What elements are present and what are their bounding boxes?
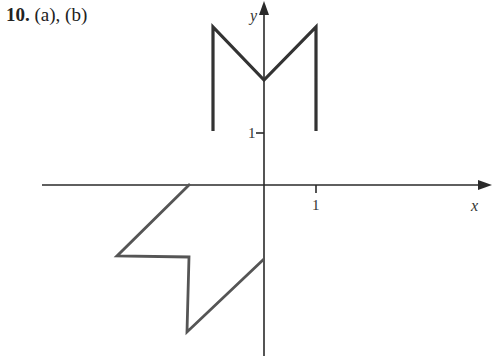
y-tick-label: 1 (248, 125, 256, 141)
y-axis: 1 y (248, 1, 269, 356)
x-axis-arrow-icon (478, 180, 492, 190)
x-axis-label: x (470, 197, 478, 214)
figure-rotated-M (117, 184, 264, 332)
x-tick-label: 1 (312, 197, 320, 213)
y-axis-arrow-icon (259, 1, 269, 15)
coordinate-plane: 1 x 1 y (0, 0, 497, 356)
y-axis-label: y (248, 7, 258, 25)
x-axis: 1 x (42, 180, 492, 214)
